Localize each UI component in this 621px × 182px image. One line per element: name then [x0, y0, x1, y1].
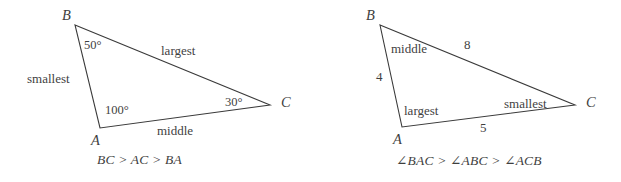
left-angle-label-c: 30°: [225, 96, 243, 109]
right-figure-caption: ∠BAC > ∠ABC > ∠ACB: [396, 152, 542, 169]
right-vertex-label-b: B: [366, 8, 375, 23]
left-vertex-label-c: C: [281, 95, 291, 110]
triangle-angles-figure: B A C 50° 100° 30° smallest largest midd…: [0, 0, 310, 182]
left-vertex-label-b: B: [62, 8, 71, 23]
right-angle-label-a-word: largest: [404, 104, 438, 117]
right-side-label-ac-word: smallest: [504, 97, 547, 110]
left-figure-caption: BC > AC > BA: [97, 152, 182, 168]
left-angle-label-a: 100°: [105, 104, 129, 117]
right-vertex-label-c: C: [586, 95, 596, 110]
diagram-page: B A C 50° 100° 30° smallest largest midd…: [0, 0, 621, 182]
left-side-label-ac: middle: [157, 124, 193, 137]
right-side-length-ab: 4: [376, 70, 383, 83]
right-side-length-ac: 5: [480, 121, 487, 134]
left-vertex-label-a: A: [91, 133, 100, 148]
left-angle-label-b: 50°: [84, 39, 102, 52]
triangle-sides-figure: B A C middle 4 8 5 smallest largest ∠BAC…: [310, 0, 621, 182]
right-side-length-bc: 8: [464, 38, 471, 51]
left-side-label-bc: largest: [161, 44, 195, 57]
right-vertex-label-a: A: [393, 132, 402, 147]
left-side-label-ba: smallest: [27, 72, 70, 85]
right-side-label-ab-word: middle: [391, 42, 427, 55]
